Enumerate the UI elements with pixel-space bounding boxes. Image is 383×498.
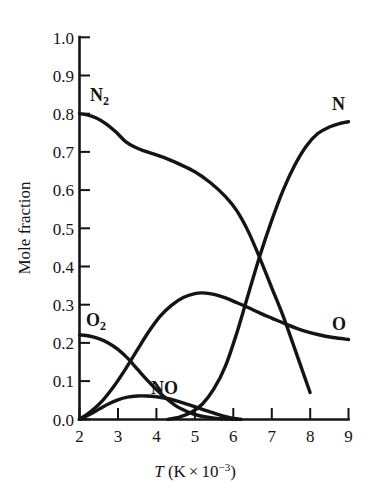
y-tick-label: 0.1 (53, 372, 74, 391)
series-label-NO: NO (151, 378, 178, 398)
series-label-O2: O2 (86, 310, 106, 333)
x-tick-label: 5 (191, 427, 200, 446)
y-tick-label: 0.2 (53, 334, 74, 353)
y-tick-label: 1.0 (53, 29, 74, 48)
y-axis-title: Mole fraction (15, 181, 34, 274)
curve-N (168, 122, 349, 420)
x-tick-label: 2 (75, 427, 84, 446)
y-tick-label: 0.0 (53, 411, 74, 430)
y-tick-label: 0.6 (53, 181, 74, 200)
series-label-N: N (332, 94, 345, 114)
x-tick-label: 9 (344, 427, 353, 446)
x-axis-tick-labels: 2 3 4 5 6 7 8 9 (75, 427, 353, 446)
curve-N2 (80, 114, 311, 393)
x-tick-label: 3 (114, 427, 123, 446)
y-axis-ticks (80, 37, 91, 419)
series-label-N2: N2 (90, 85, 109, 108)
x-tick-label: 7 (268, 427, 277, 446)
x-tick-label: 6 (229, 427, 238, 446)
series-annotations: N2 N O2 O NO (86, 85, 346, 398)
y-tick-label: 0.8 (53, 105, 74, 124)
x-tick-label: 8 (306, 427, 315, 446)
y-tick-label: 0.5 (53, 220, 74, 239)
y-tick-label: 0.7 (53, 143, 75, 162)
mole-fraction-vs-temperature-chart: 1.0 0.9 0.8 0.7 0.6 0.5 0.4 0.3 0.2 0.1 … (0, 0, 383, 498)
chart-figure: 1.0 0.9 0.8 0.7 0.6 0.5 0.4 0.3 0.2 0.1 … (0, 0, 383, 498)
y-tick-label: 0.4 (53, 258, 75, 277)
y-tick-label: 0.9 (53, 67, 74, 86)
series-curves (80, 114, 349, 420)
y-axis-tick-labels: 1.0 0.9 0.8 0.7 0.6 0.5 0.4 0.3 0.2 0.1 … (53, 29, 75, 430)
x-axis-title: T (K×10−3) (154, 461, 236, 481)
x-tick-label: 4 (152, 427, 161, 446)
series-label-O: O (332, 314, 346, 334)
y-tick-label: 0.3 (53, 296, 74, 315)
